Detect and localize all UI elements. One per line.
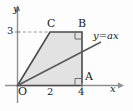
origin-label-O: O xyxy=(18,86,27,97)
point-label-C: C xyxy=(47,18,55,29)
x-tick-label-4: 4 xyxy=(78,87,84,97)
y-axis-label: y xyxy=(13,4,19,14)
y-tick-label-3: 3 xyxy=(7,26,13,36)
x-tick-label-2: 2 xyxy=(47,87,53,97)
point-label-B: B xyxy=(78,18,86,29)
point-label-A: A xyxy=(85,71,93,82)
line-equation-label: y=ax xyxy=(93,31,119,41)
geometry-figure: C B A O 3 2 4 y x y=ax xyxy=(0,0,133,111)
shape-trapezoid-OCBA xyxy=(18,32,83,86)
x-axis-label: x xyxy=(110,84,116,94)
x-axis-arrowhead xyxy=(118,83,124,89)
